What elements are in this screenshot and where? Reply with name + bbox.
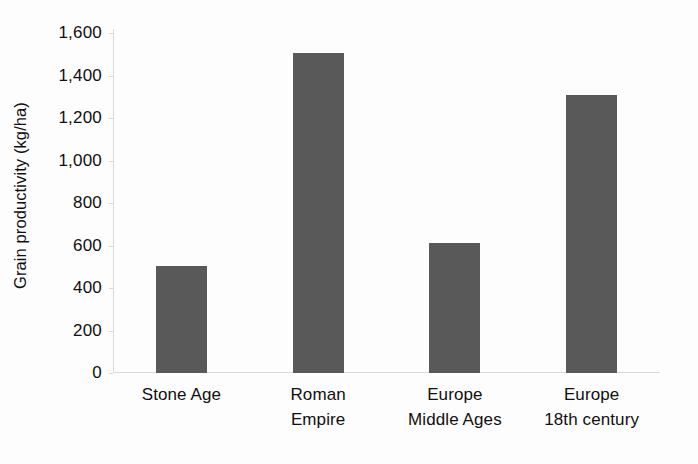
- y-axis-tick-mark: [109, 33, 113, 34]
- y-axis-title-text: Grain productivity (kg/ha): [11, 102, 30, 289]
- y-axis-tick-label: 1,200: [58, 108, 102, 128]
- y-axis-tick-mark: [109, 246, 113, 247]
- plot-area: [113, 33, 660, 373]
- y-axis-tick-label: 1,000: [58, 151, 102, 171]
- x-axis-category-label: Europe18th century: [523, 382, 660, 432]
- y-axis-tick-label: 1,400: [58, 66, 102, 86]
- x-axis-category-labels: Stone AgeRomanEmpireEuropeMiddle AgesEur…: [113, 382, 660, 456]
- x-axis-category-label-line2: 18th century: [523, 407, 660, 432]
- x-axis-category-label-line2: Middle Ages: [387, 407, 524, 432]
- x-axis-category-label-line1: Stone Age: [142, 385, 221, 404]
- x-axis-category-label: Stone Age: [113, 382, 250, 407]
- x-axis-category-label: EuropeMiddle Ages: [387, 382, 524, 432]
- x-axis-category-label-line2: Empire: [250, 407, 387, 432]
- y-axis-tick-mark: [109, 118, 113, 119]
- y-axis-tick-label: 200: [73, 321, 102, 341]
- x-axis-category-label-line1: Europe: [427, 385, 482, 404]
- bar-chart: Grain productivity (kg/ha) 0200400600800…: [0, 0, 698, 464]
- y-axis-tick-mark: [109, 161, 113, 162]
- y-axis-tick-label: 1,600: [58, 23, 102, 43]
- bar: [293, 53, 344, 373]
- y-axis-tick-mark: [109, 76, 113, 77]
- y-axis-tick-label: 400: [73, 278, 102, 298]
- bar: [156, 266, 207, 373]
- y-axis-tick-mark: [109, 288, 113, 289]
- y-axis-tick-label: 0: [92, 363, 102, 383]
- bars-layer: [113, 33, 660, 373]
- y-axis-tick-mark: [109, 373, 113, 374]
- y-axis-tick-label: 600: [73, 236, 102, 256]
- y-axis-tick-label: 800: [73, 193, 102, 213]
- y-axis-tick-labels: 02004006008001,0001,2001,4001,600: [34, 0, 108, 390]
- x-axis-category-label-line1: Roman: [290, 385, 345, 404]
- x-axis-category-label-line1: Europe: [564, 385, 619, 404]
- x-axis-category-label: RomanEmpire: [250, 382, 387, 432]
- bar: [566, 95, 617, 373]
- y-axis-tick-mark: [109, 203, 113, 204]
- bar: [429, 243, 480, 373]
- y-axis-tick-mark: [109, 331, 113, 332]
